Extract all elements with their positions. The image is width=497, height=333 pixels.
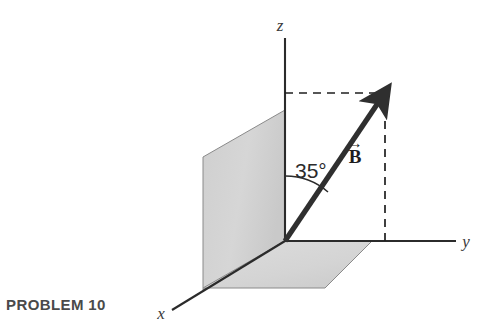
y-axis-label: y [460, 232, 470, 251]
figure-page: z y x 35° → B PROBLEM 10 [0, 0, 497, 333]
angle-label: 35° [295, 159, 327, 182]
coordinate-system-figure: z y x 35° → B [0, 0, 497, 333]
problem-caption: PROBLEM 10 [6, 296, 106, 313]
x-axis-label: x [156, 304, 165, 323]
z-axis-label: z [276, 16, 284, 35]
vector-b-label: B [349, 146, 362, 167]
